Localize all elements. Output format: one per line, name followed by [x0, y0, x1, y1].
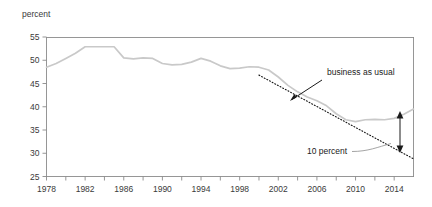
y-tick-label-35: 35: [30, 125, 40, 135]
y-axis-tick-labels: 55504540353025: [30, 32, 40, 182]
gap-arrow-head-down-icon: [397, 146, 404, 154]
y-axis-ticks: [43, 37, 47, 177]
x-tick-label-2014: 2014: [385, 184, 404, 194]
y-tick-label-25: 25: [30, 172, 40, 182]
series-actual-line: [47, 47, 414, 122]
annotation-ten-percent-label: 10 percent: [307, 146, 348, 156]
x-tick-label-2006: 2006: [307, 184, 326, 194]
annotation-business-as-usual-label: business as usual: [327, 67, 395, 77]
x-tick-label-1986: 1986: [114, 184, 133, 194]
x-tick-label-1982: 1982: [76, 184, 95, 194]
annotation-gap-arrow: [397, 111, 404, 153]
annotation-ten-percent: 10 percent: [307, 144, 391, 157]
x-tick-label-1994: 1994: [192, 184, 211, 194]
data-series-group: [47, 47, 414, 159]
x-tick-label-2010: 2010: [346, 184, 365, 194]
y-axis-title: percent: [22, 9, 51, 19]
y-tick-label-30: 30: [30, 148, 40, 158]
y-tick-label-40: 40: [30, 102, 40, 112]
plot-frame: [47, 37, 415, 177]
chart-container: percent 55504540353025 19781982198619901…: [0, 0, 432, 207]
x-tick-label-1990: 1990: [153, 184, 172, 194]
y-tick-label-50: 50: [30, 55, 40, 65]
y-tick-label-55: 55: [30, 32, 40, 42]
x-axis-tick-labels: 1978198219861990199419982002200620102014: [37, 184, 404, 194]
line-chart: percent 55504540353025 19781982198619901…: [0, 0, 432, 207]
y-tick-label-45: 45: [30, 79, 40, 89]
annotation-ten-percent-leader-line: [352, 144, 391, 152]
x-tick-label-2002: 2002: [269, 184, 288, 194]
x-tick-label-1978: 1978: [37, 184, 56, 194]
x-tick-label-1998: 1998: [230, 184, 249, 194]
x-axis-ticks: [47, 177, 395, 181]
